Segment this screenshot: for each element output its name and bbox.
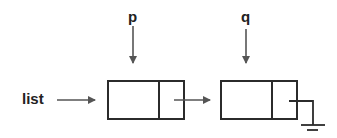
p-label: p: [128, 8, 137, 25]
q-label: q: [241, 8, 250, 25]
list-label: list: [22, 90, 44, 107]
null-ground-icon: [289, 101, 325, 130]
node-1-box: [108, 81, 184, 119]
node-1: [108, 81, 184, 119]
linked-list-diagram: list p q: [0, 0, 337, 138]
node-2-box: [221, 81, 297, 119]
node-2: [221, 81, 297, 119]
